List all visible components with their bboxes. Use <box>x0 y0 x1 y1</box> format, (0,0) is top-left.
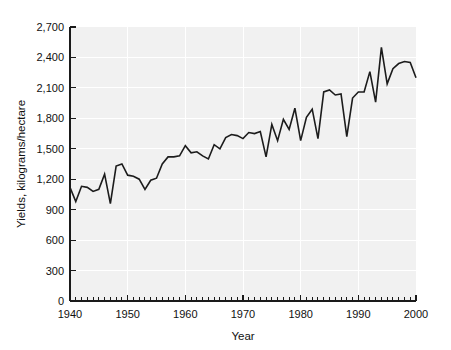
y-axis-title: Yields, kilograms/hectare <box>15 100 27 228</box>
x-tick-label-1980: 1980 <box>288 308 312 320</box>
x-tick-label-2000: 2000 <box>404 308 428 320</box>
x-axis-title: Year <box>231 330 254 342</box>
y-tick-label-1200: 1,200 <box>36 173 64 185</box>
y-tick-label-2400: 2,400 <box>36 51 64 63</box>
x-tick-label-1990: 1990 <box>346 308 370 320</box>
y-tick-label-2100: 2,100 <box>36 82 64 94</box>
y-tick-label-1500: 1,500 <box>36 143 64 155</box>
y-tick-label-600: 600 <box>46 234 64 246</box>
y-tick-label-1800: 1,800 <box>36 112 64 124</box>
yield-line-chart: 2,700 2,400 2,100 1,800 1,500 1,200 900 … <box>0 0 451 350</box>
y-tick-label-2700: 2,700 <box>36 21 64 33</box>
x-tick-label-1940: 1940 <box>58 308 82 320</box>
y-tick-label-900: 900 <box>46 204 64 216</box>
y-tick-label-300: 300 <box>46 265 64 277</box>
chart-svg: 2,700 2,400 2,100 1,800 1,500 1,200 900 … <box>0 0 451 350</box>
x-tick-label-1970: 1970 <box>231 308 255 320</box>
y-tick-label-0: 0 <box>58 295 64 307</box>
x-tick-label-1950: 1950 <box>115 308 139 320</box>
x-tick-label-1960: 1960 <box>173 308 197 320</box>
